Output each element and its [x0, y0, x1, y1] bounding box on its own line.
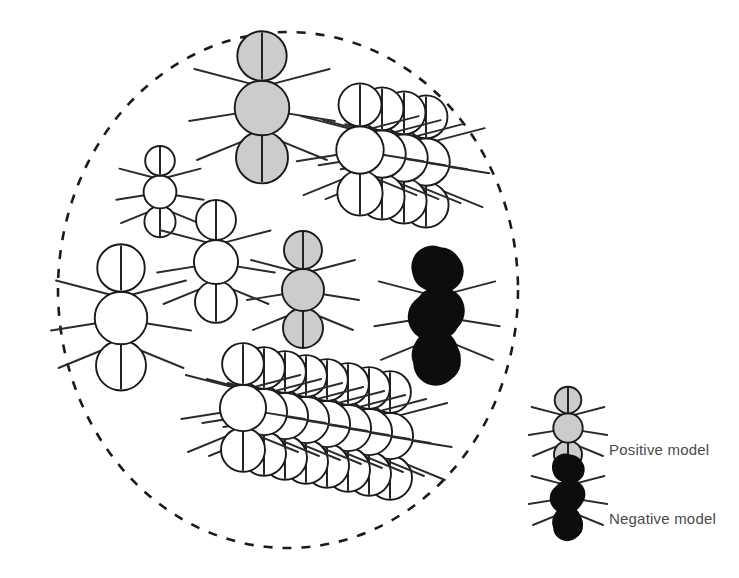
ant-thorax: [220, 385, 266, 431]
ant-thorax: [336, 126, 383, 173]
figure-root: Positive modelNegative model: [0, 0, 739, 578]
ant-thorax: [235, 81, 290, 136]
ant-thorax: [194, 240, 238, 284]
ant-scribble: [559, 461, 580, 482]
ant-scribble: [424, 297, 462, 335]
ant-thorax: [553, 413, 582, 442]
ant-thorax: [282, 269, 324, 311]
ant-distribution-figure: Positive modelNegative model: [0, 0, 739, 578]
legend-positive-label: Positive model: [609, 441, 709, 458]
ant-scribble: [422, 258, 456, 292]
ant-thorax: [144, 176, 177, 209]
ant-scribble: [560, 486, 584, 510]
ant-thorax: [95, 292, 148, 345]
legend-negative-label: Negative model: [609, 510, 716, 527]
